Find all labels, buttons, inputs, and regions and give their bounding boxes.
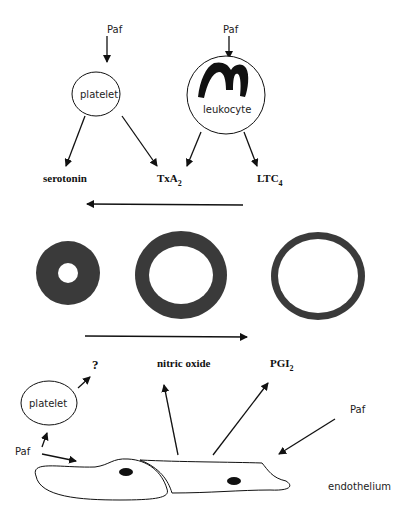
- vessel-normal-lumen: [149, 246, 213, 304]
- arrow-leukocyte-to-ltc4: [244, 132, 257, 166]
- arrow-platelet-to-txa2: [122, 116, 157, 166]
- platelet-label-top: platelet: [80, 89, 118, 100]
- arrow-platelet-to-serotonin: [66, 116, 85, 166]
- nucleus-2: [227, 477, 241, 485]
- vessel-dilated-lumen: [278, 239, 358, 313]
- pgi2-label: PGI2: [270, 357, 294, 373]
- dilation-arrow: [85, 336, 247, 337]
- paf-label-top-right: Paf: [223, 24, 239, 35]
- arrow-paf-to-endothelium-right: [279, 419, 335, 454]
- vessel-constricted-lumen: [58, 263, 78, 283]
- constriction-arrow: [87, 204, 243, 205]
- endothelial-cell-1: [35, 459, 167, 500]
- leukocyte-label: leukocyte: [203, 104, 251, 115]
- nucleus-1: [119, 468, 133, 476]
- paf-label-bottom-right: Paf: [350, 404, 366, 415]
- diagram-canvas: Paf platelet Paf leukocyte serotonin TxA…: [0, 0, 412, 520]
- arrow-paf-to-platelet-bottom: [42, 433, 47, 447]
- arrow-paf-to-endothelium: [42, 454, 76, 461]
- unknown-product-label: ?: [92, 357, 99, 372]
- platelet-label-bottom: platelet: [29, 398, 67, 409]
- paf-label-bottom-left: Paf: [15, 446, 31, 457]
- arrow-leukocyte-to-txa2: [187, 132, 201, 166]
- serotonin-label: serotonin: [43, 172, 87, 184]
- endothelium-label: endothelium: [328, 481, 391, 492]
- nitric-oxide-label: nitric oxide: [157, 357, 211, 369]
- arrow-endothelium-to-no: [164, 385, 178, 455]
- txa2-label: TxA2: [157, 172, 182, 188]
- paf-label-top-left: Paf: [107, 24, 123, 35]
- arrow-endothelium-to-pgi2: [213, 383, 268, 455]
- arrow-platelet-to-question: [78, 377, 90, 388]
- ltc4-label: LTC4: [257, 172, 283, 188]
